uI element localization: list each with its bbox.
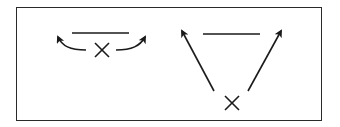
right-panel: [182, 31, 281, 110]
left-curved-arrow: [58, 37, 86, 50]
right-curved-arrow: [116, 37, 145, 50]
left-panel: [58, 33, 145, 57]
right-straight-arrow: [248, 31, 281, 91]
right-x-mark: [225, 96, 239, 110]
left-x-mark: [95, 43, 109, 57]
diagram-canvas: [0, 0, 340, 127]
left-straight-arrow: [182, 31, 214, 91]
